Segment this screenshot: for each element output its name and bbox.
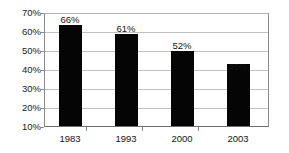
y-tick-label: 10% [3,122,41,132]
y-tick-label: 40% [3,65,41,75]
x-tick-mark [142,127,143,131]
y-tick-label: 50% [3,46,41,56]
y-tick-label: 60% [3,27,41,37]
x-tick-label-1983: 1983 [59,134,80,144]
bar-1993 [115,34,138,126]
y-tick-mark [40,127,44,128]
y-tick-label: 70% [3,8,41,18]
bar-value-label: 66% [60,15,79,25]
bar-2000 [171,51,194,126]
bar-value-label: 45% [228,62,247,72]
bar-2003 [227,64,250,126]
bar-value-label: 61% [116,24,135,34]
bar-chart: 70% 60% 50% 40% 30% 20% 10% 66% 61% 52% … [0,0,289,153]
x-tick-label-2003: 2003 [227,134,248,144]
y-tick-label: 30% [3,84,41,94]
x-tick-mark [198,127,199,131]
x-tick-label-2000: 2000 [171,134,192,144]
y-axis: 70% 60% 50% 40% 30% 20% 10% [0,0,41,153]
bar-1983 [59,25,82,126]
y-tick-label: 20% [3,103,41,113]
bar-value-label: 52% [172,41,191,51]
x-tick-mark [86,127,87,131]
x-tick-label-1993: 1993 [115,134,136,144]
